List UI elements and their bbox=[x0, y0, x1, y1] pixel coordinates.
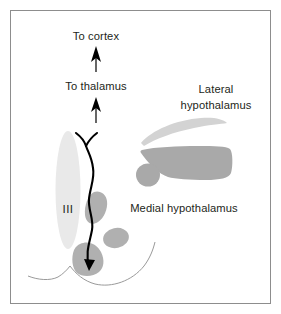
label-lateral-hypothalamus-line1: Lateral bbox=[199, 83, 234, 95]
label-to-cortex: To cortex bbox=[73, 30, 120, 42]
brain-base-outline-left bbox=[28, 266, 70, 280]
lateral-hypothalamus-crescent-shape bbox=[141, 118, 227, 146]
medial-nucleus-upper-shape bbox=[85, 191, 107, 223]
hypothalamus-diagram: To cortex To thalamus Lateral hypothalam… bbox=[0, 0, 281, 314]
ascending-pathway-branch-right bbox=[86, 133, 97, 146]
medial-nucleus-lower-shape bbox=[101, 226, 131, 251]
label-to-thalamus: To thalamus bbox=[65, 80, 127, 92]
label-lateral-hypothalamus-line2: hypothalamus bbox=[181, 99, 252, 111]
lateral-hypothalamus-circle-shape bbox=[136, 164, 160, 187]
third-ventricle-shape bbox=[56, 131, 81, 249]
ascending-pathway-branch-left bbox=[76, 133, 86, 146]
label-medial-hypothalamus: Medial hypothalamus bbox=[130, 202, 238, 214]
figure-root: To cortex To thalamus Lateral hypothalam… bbox=[0, 0, 281, 314]
label-third-ventricle: III bbox=[63, 203, 74, 215]
